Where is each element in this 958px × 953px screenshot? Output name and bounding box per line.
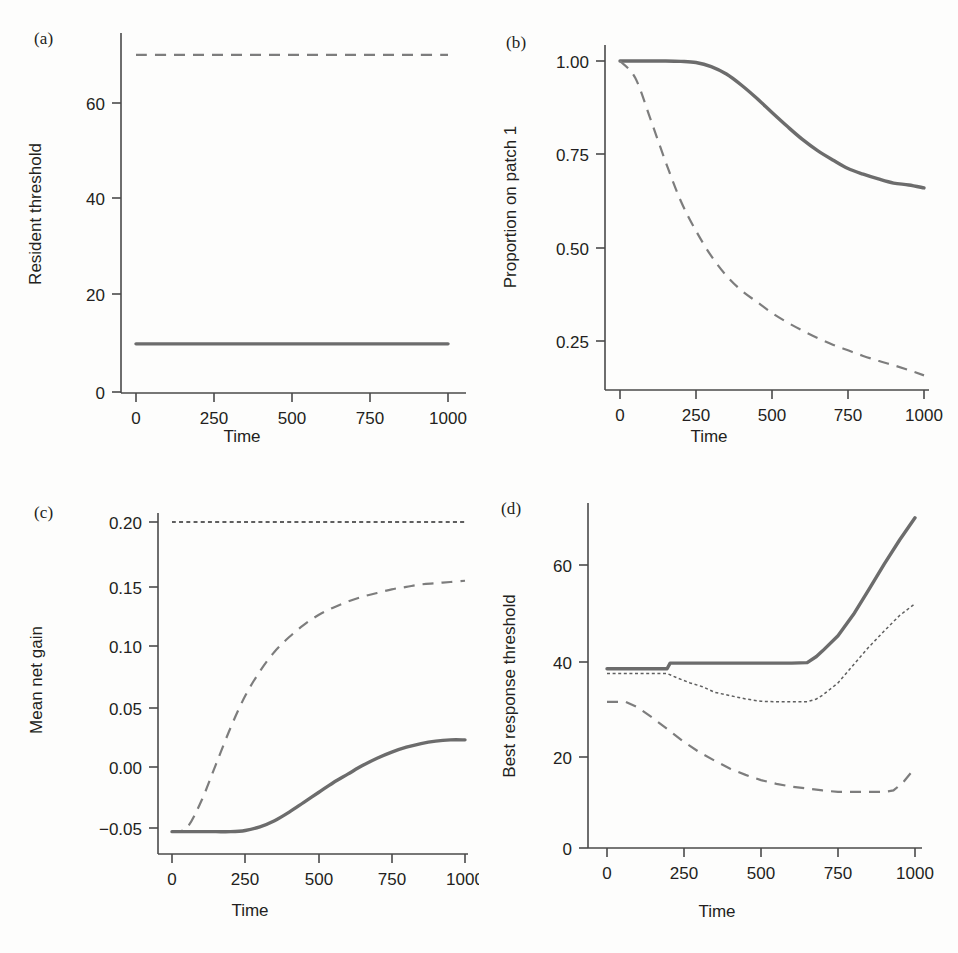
panel-a-xtick-500: 500	[278, 409, 306, 428]
panel-a-ytick-60: 60	[86, 95, 105, 114]
panel-c-xtick-1000: 1000	[446, 870, 479, 889]
panel-d-xtick-1000: 1000	[896, 864, 934, 883]
panel-b-axes	[596, 45, 929, 399]
panel-d-x-tick-labels: 0 250 500 750 1000	[602, 864, 934, 883]
panel-d-series-dashed-deep-dip	[607, 702, 915, 792]
panel-b-xtick-250: 250	[682, 406, 710, 425]
panel-c: (c) Mean net gain Time 0.20 0.15	[0, 477, 479, 953]
panel-a-plot: 60 40 20 0 0 250 500 750 1000	[0, 0, 479, 476]
panel-c-ytick-020: 0.20	[109, 514, 142, 533]
panel-d: (d) Best response threshold Time 60 40 2…	[479, 477, 958, 953]
panel-d-xtick-500: 500	[747, 864, 775, 883]
panel-a: (a) Resident threshold Time 60 40 20	[0, 0, 479, 476]
panel-b-x-tick-labels: 0 250 500 750 1000	[615, 406, 943, 425]
panel-a-xtick-1000: 1000	[429, 409, 467, 428]
panel-d-ytick-20: 20	[553, 749, 572, 768]
panel-c-y-tick-labels: 0.20 0.15 0.10 0.05 0.00 −0.05	[99, 514, 142, 839]
panel-b-ytick-050: 0.50	[556, 240, 589, 259]
panel-d-series	[607, 518, 915, 792]
panel-a-ytick-0: 0	[96, 384, 105, 403]
panel-a-ytick-40: 40	[86, 190, 105, 209]
panel-b-xtick-750: 750	[834, 406, 862, 425]
panel-a-series	[136, 55, 448, 344]
panel-a-xtick-250: 250	[200, 409, 228, 428]
panel-b-y-tick-labels: 1.00 0.75 0.50 0.25	[556, 53, 589, 352]
panel-c-ytick-015: 0.15	[109, 579, 142, 598]
panel-b-ytick-025: 0.25	[556, 333, 589, 352]
panel-c-plot: 0.20 0.15 0.10 0.05 0.00 −0.05 0 250 500…	[0, 477, 479, 953]
panel-c-xtick-500: 500	[305, 870, 333, 889]
panel-c-series	[172, 522, 465, 832]
panel-b-xtick-1000: 1000	[905, 406, 943, 425]
panel-d-xtick-0: 0	[602, 864, 611, 883]
panel-a-xtick-0: 0	[131, 409, 140, 428]
panel-d-plot: 60 40 20 0 0 250 500 750 1000	[479, 477, 958, 953]
panel-a-xtick-750: 750	[356, 409, 384, 428]
panel-c-ytick-005: 0.05	[109, 700, 142, 719]
panel-c-ytick-neg005: −0.05	[99, 820, 142, 839]
panel-d-series-dotted-dip-rise	[607, 604, 915, 702]
panel-d-ytick-60: 60	[553, 557, 572, 576]
panel-c-ytick-010: 0.10	[109, 638, 142, 657]
panel-b-series	[620, 61, 924, 375]
panel-a-axes	[112, 33, 466, 402]
panel-c-axes	[149, 513, 468, 863]
panel-c-xtick-0: 0	[167, 870, 176, 889]
panel-a-x-tick-labels: 0 250 500 750 1000	[131, 409, 467, 428]
panel-c-xtick-750: 750	[378, 870, 406, 889]
panel-d-axes	[579, 503, 922, 857]
panel-a-ytick-20: 20	[86, 286, 105, 305]
panel-d-ytick-40: 40	[553, 654, 572, 673]
panel-d-xtick-750: 750	[824, 864, 852, 883]
panel-c-x-tick-labels: 0 250 500 750 1000	[167, 870, 479, 889]
panel-c-xtick-250: 250	[231, 870, 259, 889]
panel-b-xtick-0: 0	[615, 406, 624, 425]
panel-b: (b) Proportion on patch 1 Time 1.00 0.75…	[479, 0, 958, 476]
panel-c-ytick-000: 0.00	[109, 759, 142, 778]
panel-d-y-tick-labels: 60 40 20 0	[553, 557, 572, 859]
panel-c-series-solid-slow-rise	[172, 740, 465, 832]
panel-b-ytick-100: 1.00	[556, 53, 589, 72]
panel-b-series-dashed-fast-decline	[620, 61, 924, 375]
panel-b-plot: 1.00 0.75 0.50 0.25 0 250 500 750 1000	[479, 0, 958, 476]
panel-b-xtick-500: 500	[758, 406, 786, 425]
panel-d-xtick-250: 250	[670, 864, 698, 883]
figure-four-panel-timeseries: (a) Resident threshold Time 60 40 20	[0, 0, 958, 953]
panel-a-y-tick-labels: 60 40 20 0	[86, 95, 105, 403]
panel-d-ytick-0: 0	[563, 840, 572, 859]
panel-b-series-solid-slow-decline	[620, 61, 924, 188]
panel-b-ytick-075: 0.75	[556, 146, 589, 165]
panel-d-series-solid-step-rise	[607, 518, 915, 669]
